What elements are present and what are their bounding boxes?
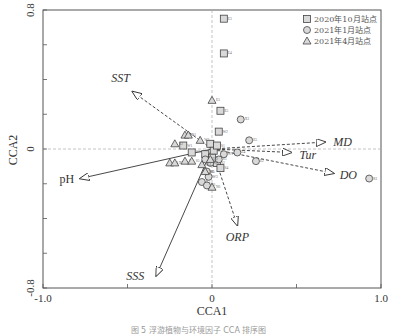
figure-caption: 图 5 浮游植物与环境因子 CCA 排序图: [0, 324, 397, 335]
legend-marker-circle: [304, 27, 311, 34]
site-label: R1: [373, 177, 377, 181]
y-axis-title: CCA2: [6, 135, 20, 166]
site-marker-circle: [237, 116, 244, 123]
site-label: E2: [260, 159, 264, 163]
site-label: E4: [228, 51, 232, 55]
legend-label: 2021年4月站点: [314, 36, 371, 46]
site-label: S5: [196, 159, 200, 163]
site-label: W3: [213, 175, 218, 179]
site-label: W4: [206, 163, 211, 167]
legend-marker-triangle: [303, 37, 311, 44]
site-marker-square: [214, 142, 221, 149]
site-label: E3: [228, 17, 232, 21]
site-label: E5: [224, 109, 228, 113]
site-label: W1: [187, 144, 192, 148]
site-marker-circle: [246, 137, 253, 144]
y-tick-label: 0.8: [24, 3, 36, 17]
x-axis-title: CCA1: [197, 304, 228, 318]
site-label: S2: [214, 161, 218, 165]
site-marker-square: [217, 107, 224, 114]
site-label: N6: [216, 185, 221, 189]
site-label: W1: [228, 152, 233, 156]
site-label: E5: [253, 138, 257, 142]
site-marker-circle: [366, 175, 373, 182]
site-label: W5: [209, 170, 214, 174]
site-label: S2: [214, 157, 218, 161]
legend-label: 2021年1月站点: [314, 25, 371, 35]
site-label: S3: [223, 157, 227, 161]
legend-label: 2020年10月站点: [314, 14, 377, 24]
site-marker-square: [220, 50, 227, 57]
site-label: S1: [221, 144, 225, 148]
site-marker-square: [188, 149, 195, 156]
site-marker-square: [215, 128, 222, 135]
legend-marker-square: [304, 16, 311, 23]
vector-label-sss: SSS: [126, 269, 144, 283]
site-marker-square: [220, 15, 227, 22]
vector-label-md: MD: [332, 135, 352, 149]
site-label: X2: [179, 142, 184, 146]
site-label: W5: [196, 150, 201, 154]
site-label: S1: [192, 133, 196, 137]
vector-label-ph: pH: [60, 172, 75, 186]
site-label: W3: [204, 138, 209, 142]
x-tick-label: -1.0: [34, 292, 52, 304]
cca-biplot: -1.001.0-0.800.8 SSTMDTurDOORPpHSSS E3E4…: [0, 0, 397, 336]
y-tick-label: -0.8: [24, 279, 36, 297]
x-tick-label: 1.0: [374, 292, 388, 304]
y-tick-label: 0: [24, 146, 36, 152]
site-label: S4: [224, 166, 228, 170]
site-marker-square: [217, 165, 224, 172]
vector-label-tur: Tur: [299, 148, 316, 162]
site-marker-circle: [252, 158, 259, 165]
site-label: E4: [241, 150, 245, 154]
x-tick-label: 0: [209, 292, 215, 304]
vector-label-sst: SST: [111, 71, 131, 85]
vector-label-orp: ORP: [226, 230, 250, 244]
legend: 2020年10月站点2021年1月站点2021年4月站点: [303, 14, 377, 46]
site-label: W2: [223, 130, 228, 134]
site-marker-circle: [234, 149, 241, 156]
site-label: E5: [216, 98, 220, 102]
site-marker-triangle: [208, 96, 216, 103]
vector-label-do: DO: [339, 168, 358, 182]
site-label: X3: [245, 117, 250, 121]
site-marker-triangle: [196, 136, 204, 143]
site-marker-triangle: [171, 140, 179, 147]
